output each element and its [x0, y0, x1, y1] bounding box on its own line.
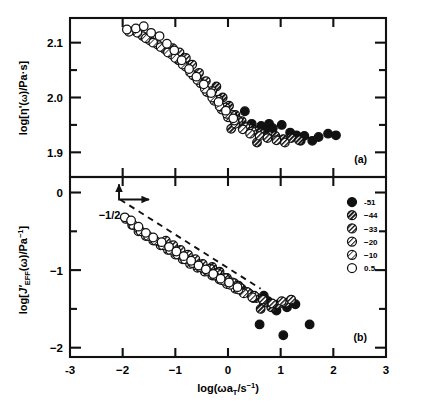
data-point: [225, 278, 234, 287]
panel-b-datapoints: [120, 213, 313, 340]
legend-label-−44: −44: [364, 211, 378, 220]
data-point: [255, 320, 264, 329]
data-point: [123, 25, 132, 34]
x-axis-ticks: [123, 18, 334, 357]
slope-corner-marker: [119, 185, 149, 200]
data-point: [277, 297, 286, 306]
data-point: [149, 233, 158, 242]
data-point: [192, 72, 201, 81]
two-panel-scatter-plot: 2.12.01.9 0−1−2 -3−2−10123 −1/2 -51−44−3…: [0, 0, 427, 420]
data-point: [185, 65, 194, 74]
panel-b-frame: [70, 177, 386, 357]
data-point: [155, 32, 164, 41]
data-point: [199, 80, 208, 89]
data-point: [332, 131, 341, 140]
panel-b-y-ticklabel: −2: [50, 342, 63, 354]
legend-marker-−20: [348, 237, 357, 246]
x-axis-ticklabel: 3: [383, 364, 389, 376]
data-point: [246, 129, 255, 138]
figure-caption: [8, 404, 419, 416]
x-axis-label: log(ωaT/s−1): [197, 381, 259, 397]
legend-label--51: -51: [364, 198, 376, 207]
data-point: [314, 133, 323, 142]
panel-b-y-ticklabel: 0: [57, 187, 63, 199]
data-point: [287, 295, 296, 304]
slope-guide-line: [120, 200, 261, 289]
slope-label: −1/2: [99, 209, 121, 221]
legend: -51−44−33−20−100.5: [348, 198, 379, 274]
legend-label-−20: −20: [364, 238, 378, 247]
legend-marker-−44: [348, 211, 357, 220]
panel-b-y-ticklabels: 0−1−2: [50, 187, 64, 354]
data-point: [281, 138, 290, 147]
data-point: [170, 46, 179, 55]
legend-marker--51: [348, 198, 357, 207]
data-point: [256, 305, 265, 314]
panel-a-y-ticklabels: 2.12.01.9: [47, 37, 64, 159]
data-point: [127, 216, 136, 225]
panel-a-frame: [70, 18, 386, 177]
x-axis-ticklabel: 2: [330, 364, 336, 376]
x-axis-ticklabel: 1: [277, 364, 284, 376]
x-axis-ticklabel: 0: [225, 364, 231, 376]
data-point: [216, 274, 225, 283]
panel-a-y-ticklabel: 2.0: [47, 92, 63, 104]
data-point: [277, 121, 286, 130]
data-point: [279, 331, 288, 340]
panel-a-y-axis-label: log[η'(ω)/Pa·s]: [17, 60, 29, 135]
data-point: [177, 56, 186, 65]
x-axis-ticklabel: −2: [116, 364, 129, 376]
legend-marker-−10: [348, 250, 357, 259]
data-point: [255, 132, 264, 141]
data-point: [214, 98, 223, 107]
data-point: [134, 222, 143, 231]
data-point: [268, 299, 277, 308]
panel-b-y-ticklabel: −1: [50, 265, 64, 277]
panel-a-y-ticklabel: 2.1: [47, 37, 64, 49]
legend-label-−10: −10: [364, 251, 378, 260]
plot-frames: [70, 18, 386, 357]
data-point: [241, 107, 250, 116]
x-axis-ticklabel: −1: [169, 364, 183, 376]
legend-label-−33: −33: [364, 225, 378, 234]
panel-a-label: (a): [354, 153, 367, 165]
data-point: [139, 22, 148, 31]
data-point: [295, 136, 304, 145]
panel-a-datapoints: [123, 22, 341, 147]
series--33: [162, 236, 296, 307]
data-point: [229, 114, 238, 123]
panel-b-y-axis-label: log[J'EFF(ω)/Pa−1]: [16, 225, 32, 314]
panel-a-y-ticklabel: 1.9: [47, 147, 63, 159]
legend-label-0.5: 0.5: [364, 264, 376, 273]
data-point: [248, 293, 257, 302]
x-axis-ticklabels: -3−2−10123: [65, 364, 389, 376]
data-point: [272, 136, 281, 145]
data-point: [163, 39, 172, 48]
panel-b-label: (b): [354, 331, 367, 343]
legend-marker-0.5: [348, 264, 357, 273]
series-0.5: [120, 213, 241, 291]
data-point: [263, 134, 272, 143]
figure-container: 2.12.01.9 0−1−2 -3−2−10123 −1/2 -51−44−3…: [0, 0, 427, 420]
data-point: [233, 283, 242, 292]
data-point: [258, 295, 267, 304]
x-axis-ticklabel: -3: [65, 364, 75, 376]
data-point: [305, 320, 314, 329]
data-point: [207, 89, 216, 98]
data-point: [147, 29, 156, 38]
slope-guide-annotation: −1/2: [99, 185, 261, 289]
data-point: [132, 24, 141, 33]
data-point: [222, 106, 231, 115]
data-point: [324, 129, 333, 138]
legend-marker-−33: [348, 224, 357, 233]
